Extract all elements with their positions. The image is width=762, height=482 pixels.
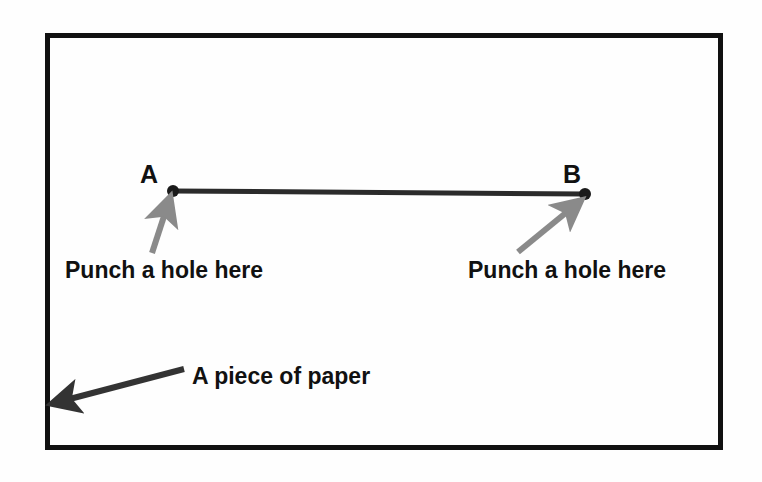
punch-left-caption: Punch a hole here	[65, 257, 263, 283]
diagram-canvas: A B Punch a hole here Punch a hole here …	[0, 0, 762, 482]
paper-callout-arrow	[62, 369, 184, 401]
endpoint-label-a: A	[140, 160, 158, 188]
endpoint-dot-b	[579, 188, 591, 200]
punched-paper-figure: A B Punch a hole here Punch a hole here …	[0, 0, 762, 482]
punch-right-arrow	[518, 207, 573, 252]
paper-border-rect	[48, 36, 721, 448]
endpoint-label-b: B	[563, 160, 581, 188]
punch-right-caption: Punch a hole here	[468, 257, 666, 283]
endpoint-dot-a	[167, 185, 179, 197]
punch-left-arrow	[152, 207, 167, 253]
paper-callout-caption: A piece of paper	[192, 363, 370, 389]
segment-ab-line	[173, 191, 585, 194]
